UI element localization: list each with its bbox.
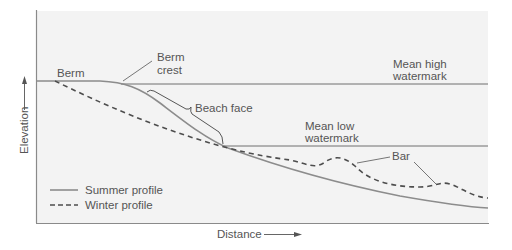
y-axis-arrow-icon [22,76,27,84]
legend-summer-label: Summer profile [85,184,163,196]
label-beach-face: Beach face [195,102,253,114]
label-berm: Berm [57,67,84,79]
label-mean-high-line2: watermark [392,70,447,82]
legend-winter-label: Winter profile [85,199,153,211]
label-berm-crest-line1: Berm [157,51,184,63]
x-axis-label: Distance [217,228,262,240]
y-axis-label-group: Elevation [18,76,30,154]
label-berm-crest-line2: crest [157,64,183,76]
label-mean-low-line2: watermark [304,132,359,144]
x-axis-label-group: Distance [217,228,302,240]
label-bar: Bar [392,150,410,162]
y-axis-label: Elevation [18,107,30,154]
x-axis-arrow-icon [294,232,302,237]
beach-profile-diagram: Berm Berm crest Beach face Mean high wat… [0,0,512,250]
label-mean-high-line1: Mean high [393,58,447,70]
label-mean-low-line1: Mean low [305,120,355,132]
